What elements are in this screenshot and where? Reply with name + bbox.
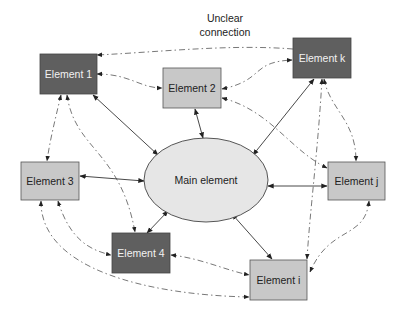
element-2-label: Element 2: [168, 82, 215, 94]
dashed-edge-ek-ej: [324, 79, 356, 161]
element-i-label: Element i: [257, 274, 301, 286]
solid-edge-main-e2: [195, 109, 203, 138]
solid-edge-main-ei: [232, 214, 272, 259]
element-1-label: Element 1: [45, 68, 92, 80]
dashed-edge-e2-ek: [222, 60, 292, 89]
element-k-label: Element k: [299, 52, 346, 64]
dashed-edge-e1-e3: [47, 95, 61, 161]
node-element-i: Element i: [250, 260, 307, 300]
node-element-2: Element 2: [163, 68, 221, 108]
annotation-line-2: connection: [200, 26, 251, 38]
dashed-edge-e4-ei: [171, 255, 249, 275]
unclear-connection-annotation: Unclear connection: [200, 12, 251, 38]
node-element-j: Element j: [328, 162, 385, 200]
node-element-k: Element k: [293, 38, 351, 78]
dashed-edge-ej-ei: [310, 201, 369, 272]
node-element-3: Element 3: [21, 162, 79, 200]
element-3-label: Element 3: [26, 175, 73, 187]
main-element-node: Main element: [144, 138, 268, 222]
dashed-edge-ek-ei: [307, 79, 322, 259]
node-element-1: Element 1: [40, 54, 97, 94]
concept-diagram: Unclear connection: [0, 0, 406, 325]
node-element-4: Element 4: [112, 233, 170, 273]
dashed-edge-ek-e1: [97, 47, 293, 55]
element-4-label: Element 4: [117, 247, 164, 259]
solid-edge-main-e3: [80, 176, 144, 181]
dashed-edge-e1-e2: [97, 74, 162, 88]
solid-edge-main-e1: [93, 95, 158, 155]
solid-edge-main-e4: [147, 211, 168, 233]
annotation-line-1: Unclear: [207, 12, 244, 24]
dashed-edge-e3-e4: [58, 201, 111, 255]
main-element-label: Main element: [174, 174, 237, 186]
element-j-label: Element j: [335, 175, 379, 187]
